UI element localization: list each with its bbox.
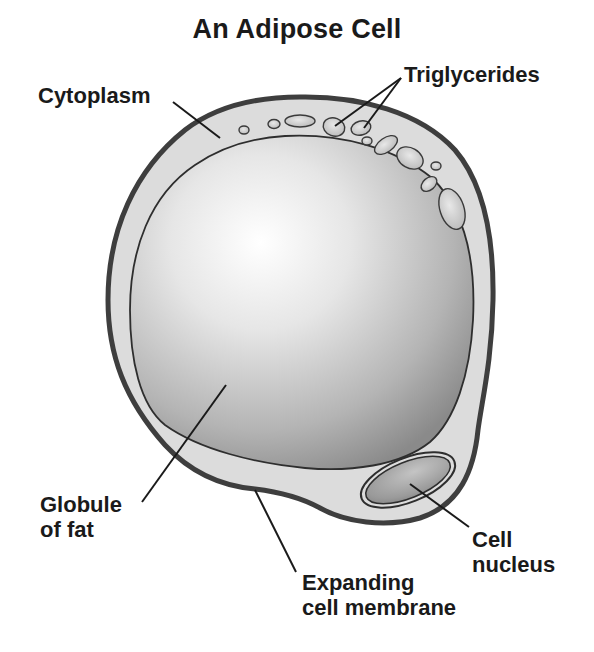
- label-nucleus-line2: nucleus: [472, 552, 555, 577]
- label-globule-of-fat: Globule of fat: [40, 492, 122, 542]
- label-cell-nucleus: Cell nucleus: [472, 527, 555, 577]
- membrane-leader: [255, 490, 296, 572]
- label-nucleus-line1: Cell: [472, 527, 555, 552]
- label-triglycerides: Triglycerides: [404, 62, 540, 87]
- label-globule-line2: of fat: [40, 517, 122, 542]
- label-membrane-line1: Expanding: [302, 570, 456, 595]
- label-expanding-cell-membrane: Expanding cell membrane: [302, 570, 456, 620]
- label-cytoplasm: Cytoplasm: [38, 83, 150, 108]
- label-membrane-line2: cell membrane: [302, 595, 456, 620]
- label-globule-line1: Globule: [40, 492, 122, 517]
